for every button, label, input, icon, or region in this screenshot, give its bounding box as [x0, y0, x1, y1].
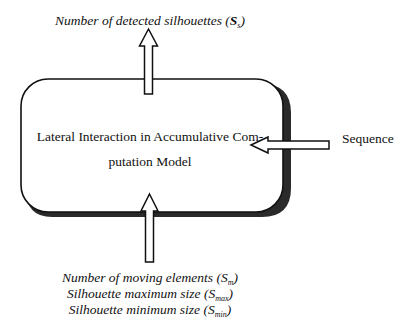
input-param-max-size: Silhouette maximum size (Smax)	[0, 286, 300, 302]
sequence-label: Sequence	[342, 131, 394, 147]
param-text: Number of moving elements (	[62, 270, 221, 285]
param-subscript: min	[215, 310, 227, 319]
model-label-line2: putation Model	[30, 149, 270, 174]
output-label-text: Number of detected silhouettes (	[55, 13, 230, 28]
output-label: Number of detected silhouettes (Ss)	[0, 13, 300, 29]
input-parameters: Number of moving elements (Sm) Silhouett…	[0, 270, 300, 318]
model-label: Lateral Interaction in Accumulative Com-…	[30, 124, 270, 174]
param-text: Silhouette maximum size (	[67, 286, 208, 301]
param-symbol: S	[221, 270, 228, 285]
param-suffix: )	[234, 270, 239, 285]
param-suffix: )	[228, 286, 233, 301]
output-label-suffix: )	[240, 13, 245, 28]
model-label-line1: Lateral Interaction in Accumulative Com-	[30, 124, 270, 149]
input-param-min-size: Silhouette minimum size (Smin)	[0, 302, 300, 318]
param-suffix: )	[227, 302, 232, 317]
input-param-moving-elements: Number of moving elements (Sm)	[0, 270, 300, 286]
param-text: Silhouette minimum size (	[69, 302, 208, 317]
param-symbol: S	[208, 302, 215, 317]
